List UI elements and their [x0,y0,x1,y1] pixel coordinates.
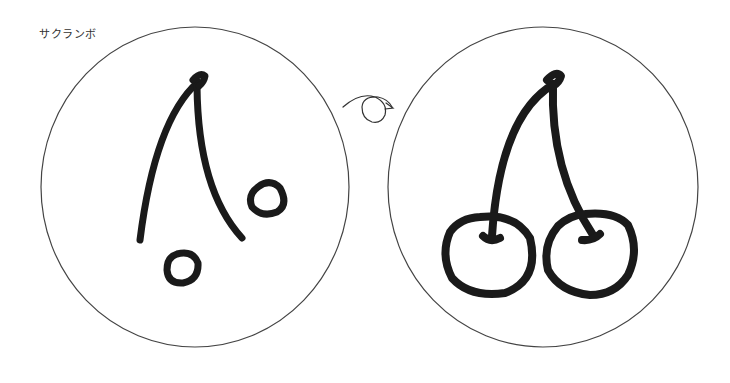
illustration [0,0,730,383]
right-circle-frame [388,27,698,347]
cherry-parts-icon [140,75,284,283]
cherry-icon [445,74,634,295]
loop-arrow-icon [343,96,393,123]
